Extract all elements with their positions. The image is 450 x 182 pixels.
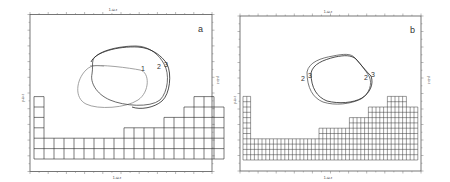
trajectory-diagram-a: 1-ω-τ 1-ω-τ y-ω-τ y-ω-τ 1 2 3 a — [0, 0, 225, 182]
curve-label-3-right: 3 — [371, 71, 375, 78]
panel-label-a: a — [198, 24, 203, 34]
axis-ticks — [28, 12, 215, 174]
curve-2 — [307, 54, 371, 104]
trajectory-curves — [307, 54, 372, 104]
panel-b: 1-ω-τ 1-ω-τ y-ω-τ y-ω-τ 2 3 2 3 b — [225, 0, 450, 182]
right-axis-label: y-ω-τ — [216, 76, 220, 85]
left-axis-label: y-ω-τ — [233, 95, 237, 104]
curve-label-3-left: 3 — [308, 72, 312, 79]
curve-label-2: 2 — [157, 63, 161, 70]
curve-2 — [92, 46, 168, 105]
curve-label-2-right: 2 — [364, 74, 368, 81]
bottom-axis-label: 1-ω-τ — [324, 176, 333, 180]
right-axis-label: y-ω-τ — [427, 76, 431, 85]
cell-grid — [34, 97, 224, 159]
top-axis-label: 1-ω-τ — [324, 10, 333, 14]
trajectory-curves — [78, 46, 170, 108]
top-axis-label: 1-ω-τ — [109, 8, 118, 12]
panel-label-b: b — [410, 25, 415, 35]
curve-3 — [311, 56, 372, 103]
cell-grid — [243, 96, 418, 160]
bottom-axis-label: 1-ω-τ — [113, 176, 122, 180]
panel-a: 1-ω-τ 1-ω-τ y-ω-τ y-ω-τ 1 2 3 a — [0, 0, 225, 182]
curve-label-3: 3 — [164, 61, 168, 68]
curve-label-2-left: 2 — [301, 75, 305, 82]
plot-frame — [30, 15, 212, 172]
curve-label-1: 1 — [141, 65, 145, 72]
trajectory-diagram-b: 1-ω-τ 1-ω-τ y-ω-τ y-ω-τ 2 3 2 3 b — [225, 0, 450, 182]
left-axis-label: y-ω-τ — [21, 93, 25, 102]
